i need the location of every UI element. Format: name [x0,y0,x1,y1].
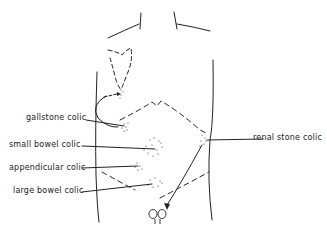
label-small-bowel-colic: small bowel colic [9,140,81,149]
leader-large-bowel [82,184,152,192]
neck-right [174,12,177,29]
renal-radiation-arrow [167,145,202,205]
leader-gallstone [86,120,124,126]
small-bowel-site [143,137,162,156]
costal-margin [120,101,208,134]
liver-outline [108,48,132,90]
label-large-bowel-colic: large bowel colic [13,186,84,195]
renal-site [199,134,206,146]
genitalia-sketch [149,210,166,225]
leader-small-bowel [82,146,155,149]
leader-appendicular [82,166,138,168]
neck-left [140,13,141,29]
shoulder-right [177,24,210,31]
label-renal-stone-colic: renal stone colic [253,133,322,142]
label-appendicular-colic: appendicular colic [9,163,86,172]
shoulder-left [108,24,139,38]
liver-inner [110,58,121,90]
lower-abdomen-left [102,172,135,190]
label-gallstone-colic: gallstone colic [26,113,86,122]
large-bowel-site [147,177,162,187]
